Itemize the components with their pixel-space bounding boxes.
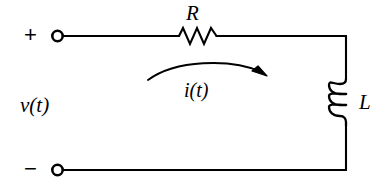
terminal-positive-label: + <box>24 24 37 46</box>
terminal-negative-label: − <box>24 158 37 180</box>
resistor-label: R <box>186 3 199 24</box>
resistor-zigzag-icon <box>179 28 217 44</box>
inductor-coil-icon <box>329 79 346 126</box>
circuit-diagram: R L v(t) i(t) + − <box>0 0 391 187</box>
current-direction-arrow-icon <box>148 63 267 80</box>
source-voltage-label: v(t) <box>20 95 49 116</box>
open-terminal-top-icon <box>52 31 62 41</box>
open-terminal-bottom-icon <box>52 165 62 175</box>
inductor-label: L <box>359 92 371 113</box>
arrowhead-icon <box>252 66 267 76</box>
loop-current-label: i(t) <box>184 80 208 100</box>
